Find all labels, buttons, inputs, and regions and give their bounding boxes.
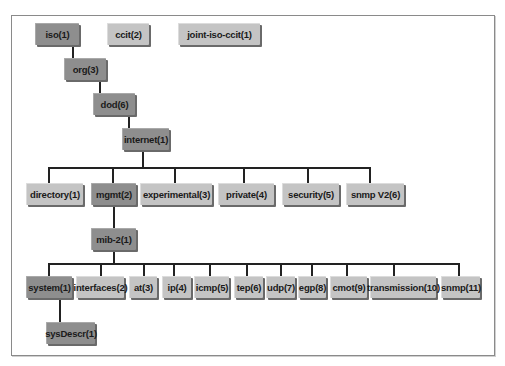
node-ccit[interactable]: ccit(2) (107, 23, 149, 45)
node-internet[interactable]: internet(1) (122, 128, 169, 150)
connector-udp (280, 263, 282, 276)
connector-egp (311, 263, 313, 276)
node-directory[interactable]: directory(1) (26, 183, 83, 205)
connector-directory (48, 167, 50, 183)
connector-snmp (458, 263, 460, 276)
connector-mgmt (112, 167, 114, 183)
node-egp[interactable]: egp(8) (298, 276, 326, 298)
node-mib-2[interactable]: mib-2(1) (91, 228, 136, 250)
connector-mib2-bus (48, 263, 458, 265)
connector-dod-internet (128, 116, 130, 128)
node-udp[interactable]: udp(7) (266, 276, 295, 298)
node-icmp[interactable]: icmp(5) (194, 276, 229, 298)
node-at[interactable]: at(3) (129, 276, 157, 298)
node-snmp[interactable]: snmp(11) (441, 276, 480, 298)
connector-system-sysdescr (59, 299, 61, 322)
connector-org-dod (99, 81, 101, 93)
node-mgmt[interactable]: mgmt(2) (91, 183, 136, 205)
connector-security (307, 167, 309, 183)
node-sysdescr[interactable]: sysDescr(1) (46, 322, 95, 344)
connector-transmission (393, 263, 395, 276)
connector-mib2-trunk (113, 251, 115, 263)
connector-experimental (174, 167, 176, 183)
node-dod[interactable]: dod(6) (93, 93, 135, 115)
connector-ip (173, 263, 175, 276)
connector-interfaces (100, 263, 102, 276)
node-experimental[interactable]: experimental(3) (140, 183, 212, 205)
node-private[interactable]: private(4) (218, 183, 274, 205)
node-ip[interactable]: ip(4) (162, 276, 191, 298)
connector-tcp (246, 263, 248, 276)
connector-internet-bus (48, 167, 370, 169)
node-org[interactable]: org(3) (64, 58, 106, 80)
connector-internet-trunk (142, 151, 144, 168)
node-iso[interactable]: iso(1) (35, 23, 79, 45)
connector-system (48, 263, 50, 276)
connector-private (243, 167, 245, 183)
node-snmp-v2[interactable]: snmp V2(6) (346, 183, 404, 205)
connector-cmot (346, 263, 348, 276)
node-transmission[interactable]: transmission(10) (370, 276, 436, 298)
connector-icmp (209, 263, 211, 276)
connector-mgmt-mib2 (113, 206, 115, 228)
connector-iso-org (72, 45, 74, 58)
node-interfaces[interactable]: interfaces(2) (76, 276, 124, 298)
connector-snmpv2 (369, 167, 371, 183)
connector-at (143, 263, 145, 276)
node-cmot[interactable]: cmot(9) (330, 276, 367, 298)
node-system[interactable]: system(1) (26, 276, 72, 298)
node-tcp[interactable]: tep(6) (234, 276, 263, 298)
node-joint-iso-ccit[interactable]: joint-iso-ccit(1) (178, 23, 260, 45)
node-security[interactable]: security(5) (282, 183, 339, 205)
